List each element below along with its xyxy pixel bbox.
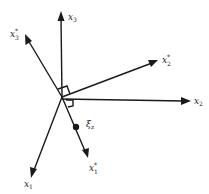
label-x2-star: x*2 [162,53,171,67]
axis-x2 [62,99,184,101]
point-xi [73,124,79,130]
arrowhead-x3 [58,11,65,21]
label-x3-star-subscript: 3 [15,34,19,41]
label-x2-star-superscript: * [167,53,170,60]
axis-x3 [61,18,62,97]
label-x3-subscript: 3 [73,16,77,23]
label-x2-subscript: 2 [199,100,203,107]
arrowhead-x2-star [148,60,158,67]
arrowhead-x2 [181,97,191,105]
arrowhead-x3-star [25,34,32,45]
axis-x2-star [62,63,152,97]
right-angle-marker-lower [66,100,73,107]
axis-x1 [34,97,62,170]
label-x1-star: x*1 [89,161,98,175]
label-point-xi: ξz [86,119,94,130]
arrowhead-x1-star [82,148,89,158]
label-x2-star-subscript: 2 [167,60,171,67]
label-xi-subscript: z [91,123,94,130]
label-x3-star-superscript: * [15,27,18,34]
arrowhead-x1 [30,167,37,178]
label-x1: x1 [24,179,33,190]
coordinate-diagram: x3 x*3 x*2 x2 x*1 x1 ξz [0,0,209,194]
label-x1-subscript: 1 [29,183,33,190]
label-x2: x2 [194,96,203,107]
label-x3: x3 [68,12,77,23]
label-x1-star-subscript: 1 [94,168,98,175]
label-x1-star-superscript: * [94,161,97,168]
label-x3-star: x*3 [10,27,19,41]
axis-x3-star [28,40,62,97]
